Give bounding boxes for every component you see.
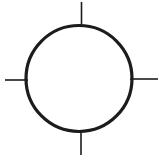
symbol-canvas	[0, 0, 164, 160]
circle-crosshair-symbol	[0, 0, 164, 160]
symbol-circle	[26, 26, 132, 132]
